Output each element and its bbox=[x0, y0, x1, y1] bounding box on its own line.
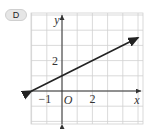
svg-text:2: 2 bbox=[52, 54, 58, 68]
svg-text:O: O bbox=[64, 93, 73, 107]
svg-text:−1: −1 bbox=[38, 92, 51, 106]
labels: yxO−122 bbox=[38, 13, 140, 107]
axes bbox=[31, 15, 141, 124]
svg-text:x: x bbox=[133, 93, 140, 107]
svg-text:y: y bbox=[53, 13, 60, 27]
svg-text:2: 2 bbox=[89, 92, 95, 106]
grid bbox=[31, 13, 143, 124]
coordinate-plane: yxO−122 bbox=[0, 0, 149, 129]
